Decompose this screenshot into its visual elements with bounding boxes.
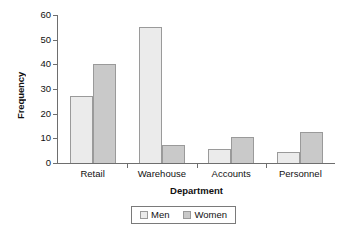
bar-personnel-men <box>277 152 300 163</box>
legend-label-men: Men <box>151 209 169 220</box>
x-axis-title: Department <box>58 185 335 196</box>
legend-item-women: Women <box>183 209 227 220</box>
x-axis-label-personnel: Personnel <box>266 168 335 180</box>
bar-retail-men <box>70 96 93 163</box>
bar-group-accounts <box>197 15 266 163</box>
legend-label-women: Women <box>194 209 227 220</box>
y-axis-tick-mark <box>53 15 57 16</box>
bar-chart: Frequency 0102030405060 RetailWarehouseA… <box>0 0 348 243</box>
bar-warehouse-women <box>162 145 185 164</box>
bar-group-personnel <box>266 15 335 163</box>
x-axis-label-accounts: Accounts <box>197 168 266 180</box>
bar-groups <box>58 15 335 163</box>
y-axis-tick-mark <box>53 138 57 139</box>
y-axis-title: Frequency <box>14 52 28 138</box>
bar-group-warehouse <box>127 15 196 163</box>
bar-accounts-women <box>231 137 254 163</box>
legend-swatch-women-icon <box>183 211 191 219</box>
y-axis-tick-mark <box>53 163 57 164</box>
y-axis-tick-label: 50 <box>40 34 51 45</box>
x-axis-label-retail: Retail <box>58 168 127 180</box>
y-axis-tick-label: 60 <box>40 9 51 20</box>
bar-retail-women <box>93 64 116 163</box>
y-axis-tick-label: 20 <box>40 108 51 119</box>
bar-accounts-men <box>208 149 231 163</box>
bar-warehouse-men <box>139 27 162 163</box>
y-axis-tick-label: 10 <box>40 132 51 143</box>
plot-area: 0102030405060 <box>57 15 335 163</box>
bar-group-retail <box>58 15 127 163</box>
y-axis-tick-mark <box>53 40 57 41</box>
y-axis-tick-mark <box>53 114 57 115</box>
y-axis-tick-mark <box>53 64 57 65</box>
legend-swatch-men-icon <box>140 211 148 219</box>
y-axis-tick-label: 30 <box>40 83 51 94</box>
x-axis-category-labels: RetailWarehouseAccountsPersonnel <box>58 168 335 180</box>
bar-personnel-women <box>300 132 323 163</box>
y-axis-tick-label: 40 <box>40 58 51 69</box>
legend-item-men: Men <box>140 209 169 220</box>
chart-legend: MenWomen <box>131 206 236 224</box>
x-axis-label-warehouse: Warehouse <box>127 168 196 180</box>
y-axis-tick-mark <box>53 89 57 90</box>
y-axis-tick-label: 0 <box>46 157 51 168</box>
